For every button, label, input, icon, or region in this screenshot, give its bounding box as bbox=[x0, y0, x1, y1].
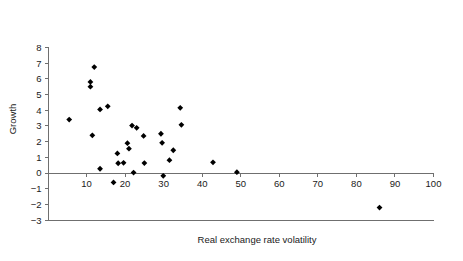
data-point bbox=[66, 117, 72, 123]
data-point bbox=[210, 159, 216, 165]
y-tick-label: −2 bbox=[31, 199, 42, 210]
data-point bbox=[167, 157, 173, 163]
data-point bbox=[131, 170, 137, 176]
y-tick-label: 6 bbox=[36, 73, 41, 84]
x-tick-label: 90 bbox=[390, 178, 401, 189]
y-axis: −3−2−1012345678 bbox=[31, 42, 48, 226]
x-tick-label: 20 bbox=[120, 178, 131, 189]
y-tick-label: 0 bbox=[36, 167, 41, 178]
x-axis: 102030405060708090100 bbox=[48, 173, 441, 220]
data-point bbox=[88, 84, 94, 90]
data-point bbox=[111, 180, 117, 186]
data-point bbox=[89, 132, 95, 138]
data-point bbox=[125, 140, 131, 146]
y-tick-label: 7 bbox=[36, 58, 41, 69]
data-point bbox=[177, 105, 183, 111]
y-tick-label: −3 bbox=[31, 215, 42, 226]
data-point bbox=[97, 166, 103, 172]
x-tick-label: 60 bbox=[274, 178, 285, 189]
y-tick-label: −1 bbox=[31, 183, 42, 194]
data-point bbox=[126, 146, 132, 152]
data-point bbox=[377, 205, 383, 211]
data-point bbox=[97, 107, 103, 113]
x-axis-title: Real exchange rate volatility bbox=[198, 234, 317, 245]
y-tick-label: 2 bbox=[36, 136, 41, 147]
data-point bbox=[141, 133, 147, 139]
data-point bbox=[158, 131, 164, 137]
data-point bbox=[115, 160, 121, 166]
x-tick-label: 40 bbox=[197, 178, 208, 189]
x-tick-label: 10 bbox=[81, 178, 92, 189]
x-tick-label: 80 bbox=[351, 178, 362, 189]
data-point bbox=[121, 160, 127, 166]
y-axis-title: Growth bbox=[7, 104, 18, 135]
data-point bbox=[159, 140, 165, 146]
x-tick-label: 30 bbox=[158, 178, 169, 189]
data-point bbox=[105, 103, 111, 109]
y-tick-label: 8 bbox=[36, 42, 41, 53]
y-tick-label: 1 bbox=[36, 152, 41, 163]
y-tick-label: 4 bbox=[36, 105, 41, 116]
y-tick-label: 3 bbox=[36, 120, 41, 131]
data-point bbox=[170, 147, 176, 153]
data-point bbox=[114, 150, 120, 156]
data-point bbox=[178, 122, 184, 128]
x-tick-label: 100 bbox=[426, 178, 442, 189]
data-point bbox=[141, 160, 147, 166]
data-point bbox=[234, 169, 240, 175]
x-tick-label: 50 bbox=[235, 178, 246, 189]
data-point bbox=[91, 64, 97, 70]
y-tick-label: 5 bbox=[36, 89, 41, 100]
x-tick-label: 70 bbox=[313, 178, 324, 189]
data-points-layer bbox=[66, 64, 382, 210]
chart-canvas: −3−2−1012345678 102030405060708090100 Gr… bbox=[0, 0, 463, 261]
scatter-chart: −3−2−1012345678 102030405060708090100 Gr… bbox=[0, 0, 463, 261]
